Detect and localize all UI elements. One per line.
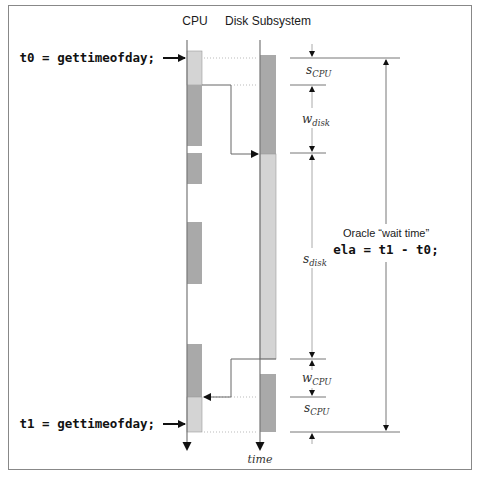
cpu-bar-other-work-2 xyxy=(187,153,202,184)
disk-activity-bars xyxy=(260,55,276,432)
ela-formula: ela = t1 - t0; xyxy=(333,242,438,257)
cpu-activity-bars xyxy=(187,51,202,432)
cpu-bar-syscall-start xyxy=(187,51,202,85)
disk-timeline-arrow-icon xyxy=(256,442,265,451)
cpu-bar-other-work-1 xyxy=(187,85,202,146)
t1-call-label: t1 = gettimeofday; xyxy=(20,416,155,431)
interval-s-disk: sdisk xyxy=(303,252,327,268)
cpu-bar-other-work-4 xyxy=(187,344,202,397)
interval-w-cpu: wCPU xyxy=(302,371,332,387)
t0-call-label: t0 = gettimeofday; xyxy=(20,50,155,65)
oracle-wait-time-diagram: CPU Disk Subsystem time t0 = gettimeofda… xyxy=(0,0,478,477)
interval-s-cpu-1: sCPU xyxy=(306,63,332,79)
disk-bar-other-io-2 xyxy=(260,374,276,432)
time-axis-label: time xyxy=(248,453,273,466)
cpu-bar-syscall-end xyxy=(187,397,202,432)
io-request-connector xyxy=(202,85,258,154)
cpu-timeline-arrow-icon xyxy=(183,442,192,451)
interval-s-cpu-2: sCPU xyxy=(304,401,330,417)
disk-bar-other-io xyxy=(260,55,276,154)
cpu-column-label: CPU xyxy=(182,14,207,28)
cpu-bar-other-work-3 xyxy=(187,222,202,284)
disk-column-label: Disk Subsystem xyxy=(225,14,311,28)
interval-w-disk: wdisk xyxy=(302,112,330,128)
disk-bar-service xyxy=(260,154,276,359)
oracle-wait-time-label: Oracle “wait time” xyxy=(343,227,430,239)
